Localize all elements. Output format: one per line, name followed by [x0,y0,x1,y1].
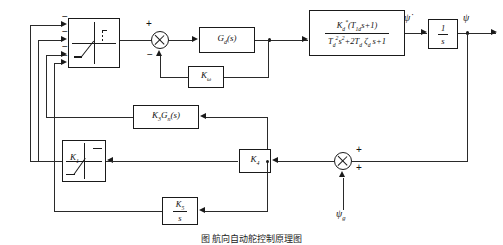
plant-denominator: Td2s2+2Td ζd s+1 [325,33,389,48]
k1-k4-bridge [106,161,114,162]
compensator-output-line [46,117,133,118]
integrator-denominator: s [438,34,448,46]
saturation-nonlinearity-block[interactable] [68,18,120,68]
rate-feedback-h-line [224,77,269,78]
nonlinear-compensator-block[interactable]: K3Gn(s) [133,105,199,129]
limiter-output-line [120,40,152,41]
outer-sum-plus-bottom: + [356,163,362,173]
saturation-gain-k1-block[interactable]: K1 [62,140,106,182]
k1-input-line [113,161,238,162]
k4-return-v-line [30,25,31,162]
outer-sum-plus-top: + [356,145,362,155]
k1-return-v-line [38,40,39,162]
controller-label: Gd(s) [218,34,237,45]
k5-transfer-function: K5 s [173,199,187,224]
rate-gain-block[interactable]: Kω [188,66,224,88]
sign-minus-4: − [62,51,68,61]
nonlinear-compensator-label: K3Gn(s) [152,111,180,122]
k5-input-line [205,211,268,212]
psi-g-input-arrow [339,171,345,177]
controller-block[interactable]: Gd(s) [199,27,255,53]
compensator-return-v-line [46,55,47,118]
plant-input-arrow [302,36,308,42]
sign-minus-2: − [62,27,68,37]
feedback-line-1 [30,25,62,26]
k4-label: K4 [251,155,260,166]
compensator-input-line [206,117,268,118]
psi-dot-label: ψ̇ [404,12,410,23]
k4-input-line [278,161,334,162]
saturation-curve-icon [69,19,119,67]
rate-feedback-drop-line [268,40,269,77]
controller-to-plant-line [255,40,308,41]
k4-path-left-stub [30,161,39,162]
inner-sum-minus-sign: − [147,50,153,60]
sum-to-controller-line [169,40,193,41]
k1-output-line [38,161,62,162]
plant-transfer-function: Kd*(T1ds+1) Td2s2+2Td ζd s+1 [325,19,389,47]
integrator-input-arrow [421,29,427,35]
integrator-numerator: 1 [438,23,448,33]
inner-sum-plus-sign: + [146,19,152,29]
rate-to-sum-h-line [160,77,189,78]
plant-numerator: Kd*(T1ds+1) [325,19,389,32]
feedback-line-2 [38,40,62,41]
k5-tap-v-line [267,161,268,212]
psi-g-label: ψg [336,208,346,221]
rate-to-sum-v-line [160,56,161,78]
sign-minus-1: − [62,12,68,22]
k5-output-line [54,211,162,212]
integrator-transfer-function: 1 s [438,23,448,46]
k5-denominator: s [173,211,187,223]
inner-sum-feedback-arrow [156,50,162,56]
branch-node-k5 [266,160,269,163]
feedback-line-3 [46,55,62,56]
controller-input-arrow [192,36,198,42]
ship-dynamics-block[interactable]: Kd*(T1ds+1) Td2s2+2Td ζd s+1 [309,10,405,56]
k5-return-v-line [54,63,55,212]
psi-feedback-v-line [467,33,468,161]
outer-summing-junction[interactable] [334,152,352,170]
figure-caption: 图 航向自动舵控制原理图 [0,232,503,245]
k5-numerator: K5 [173,199,187,211]
inner-summing-junction[interactable] [151,31,169,49]
integrator-block[interactable]: 1 s [428,19,458,49]
integral-gain-k5-block[interactable]: K5 s [162,197,198,225]
k1-label: K1 [70,152,79,164]
psi-feedback-h-line [352,161,468,162]
psi-output-label: ψ [463,12,469,23]
rate-gain-label: Kω [201,71,211,82]
output-arrow [491,29,497,35]
psi-g-input-line [343,178,344,210]
